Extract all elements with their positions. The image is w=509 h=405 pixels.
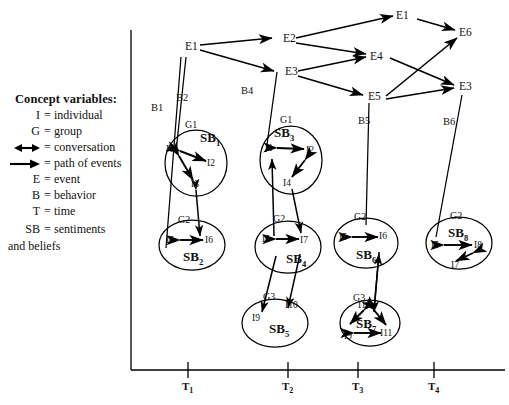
individual-text: I11 <box>380 328 392 338</box>
individual-text: I2 <box>306 145 314 155</box>
path-e5-e6 <box>386 38 457 96</box>
group-text: G2 <box>354 211 366 222</box>
sb-text: SB <box>356 247 372 262</box>
event-path-arrows <box>200 16 457 99</box>
path-e4-e3b <box>390 58 454 85</box>
individual-label-SB5-I9: I9 <box>252 314 260 324</box>
axis-tick-label-t3: T3 <box>352 381 363 396</box>
individual-label-SB3-I1: I1 <box>265 144 273 154</box>
individual-text: I7 <box>300 235 308 245</box>
path-e5-e3b <box>386 88 454 99</box>
conversation-SB1-i1-i3 <box>179 156 193 180</box>
individual-text: I5 <box>262 234 270 244</box>
path-e1b-e6 <box>417 19 455 30</box>
sb-text: SB <box>274 125 290 140</box>
individual-label-SB8-I5: I5 <box>431 241 439 251</box>
path-e1a-e3a <box>200 50 274 71</box>
event-label: E3 <box>459 80 472 92</box>
individual-text: I9 <box>344 331 352 341</box>
sb-label-SB4: SB4 <box>286 252 306 271</box>
individual-label-SB2-I5: I5 <box>166 236 174 246</box>
event-node-E6[interactable]: E6 <box>459 27 472 39</box>
sb-subscript: 3 <box>290 133 294 143</box>
behavior-label-B5: B5 <box>358 116 370 127</box>
sb-text: SB <box>286 251 302 266</box>
tick-subscript: 4 <box>435 386 439 395</box>
individual-label-SB8-I7: I7 <box>451 261 459 271</box>
event-node-E2[interactable]: E2 <box>283 33 296 45</box>
group-text: G3 <box>263 291 275 302</box>
cross-link-SB3-SB4 <box>292 189 301 233</box>
individual-text: I5 <box>431 240 439 250</box>
sb-label-SB5: SB5 <box>269 322 289 341</box>
individual-text: I7 <box>451 260 459 270</box>
event-node-E1b[interactable]: E1 <box>396 10 409 22</box>
event-node-E5[interactable]: E5 <box>368 91 381 103</box>
behavior-lines <box>166 57 462 248</box>
sb-text: SB <box>448 225 464 240</box>
behavior-text: B5 <box>358 115 370 126</box>
event-label: E5 <box>368 90 381 102</box>
event-label: E2 <box>283 32 296 44</box>
conversation-SB3-i2-i4 <box>292 160 305 177</box>
individual-label-SB4-I7: I7 <box>300 236 308 246</box>
event-node-E4[interactable]: E4 <box>370 51 383 63</box>
axis-tick-label-t1: T1 <box>182 381 193 396</box>
individual-label-SB3-I4: I4 <box>283 179 291 189</box>
individual-text: I1 <box>166 144 174 154</box>
sb-label-SB6: SB6 <box>356 248 376 267</box>
individual-label-SB1-I1: I1 <box>166 145 174 155</box>
tick-subscript: 3 <box>359 386 363 395</box>
sb-subscript: 6 <box>372 255 376 265</box>
conversation-arrows <box>179 148 473 333</box>
individual-label-SB7-I9: I9 <box>344 332 352 342</box>
axis-tick-label-t2: T2 <box>282 381 293 396</box>
group-label-SB3-G1: G1 <box>280 115 292 125</box>
sb-text: SB <box>356 316 372 331</box>
group-label-SB1-G1: G1 <box>185 120 197 130</box>
group-label-SB2-G2: G2 <box>178 215 190 225</box>
individual-label-SB6-I5: I5 <box>339 233 347 243</box>
group-label-SB6-G2: G2 <box>354 212 366 222</box>
event-node-E1a[interactable]: E1 <box>185 41 198 53</box>
group-text: G2 <box>178 214 190 225</box>
sb-subscript: 8 <box>464 233 468 243</box>
individual-text: I4 <box>283 178 291 188</box>
behavior-text: B6 <box>443 116 455 127</box>
path-e2-e1b <box>296 16 393 38</box>
conversation-SB1-i1-i2 <box>180 151 206 161</box>
individual-text: I3 <box>191 179 199 189</box>
individual-text: I10 <box>358 300 371 310</box>
event-node-E3a[interactable]: E3 <box>285 66 298 78</box>
behavior-text: B2 <box>176 92 188 103</box>
group-text: G2 <box>450 210 462 221</box>
path-e3a-e5 <box>298 76 363 95</box>
path-e1a-e2 <box>200 38 272 45</box>
individual-label-SB6-I6: I6 <box>379 232 387 242</box>
event-label: E1 <box>185 40 198 52</box>
individual-text: I6 <box>379 231 387 241</box>
individual-label-SB8-I8: I8 <box>474 241 482 251</box>
individual-label-SB4-I5: I5 <box>262 235 270 245</box>
individual-label-SB7-I10: I10 <box>358 301 371 311</box>
diagram-canvas: Concept variables: I = individual G = gr… <box>0 0 509 405</box>
individual-label-SB2-I6: I6 <box>205 236 213 246</box>
axis-tick-label-t4: T4 <box>428 381 439 396</box>
sb-subscript: 7 <box>372 324 376 334</box>
behavior-label-B4: B4 <box>241 86 253 97</box>
path-e3a-e4 <box>298 57 366 71</box>
individual-label-SB5-I10: I10 <box>285 301 298 311</box>
event-node-E3b[interactable]: E3 <box>459 81 472 93</box>
tick-subscript: 2 <box>289 386 293 395</box>
cross-link-SB1-SB2 <box>196 190 200 236</box>
group-text: G2 <box>273 213 285 224</box>
sb-label-SB3: SB3 <box>274 126 294 145</box>
group-text: G1 <box>185 119 197 130</box>
group-label-SB4-G2: G2 <box>273 214 285 224</box>
event-label: E1 <box>396 9 409 21</box>
event-label: E4 <box>370 50 383 62</box>
sb-subscript: 5 <box>285 329 289 339</box>
sb-subscript: 4 <box>302 259 306 269</box>
sb-subscript: 1 <box>216 138 220 148</box>
diagram-vectors <box>0 0 509 405</box>
